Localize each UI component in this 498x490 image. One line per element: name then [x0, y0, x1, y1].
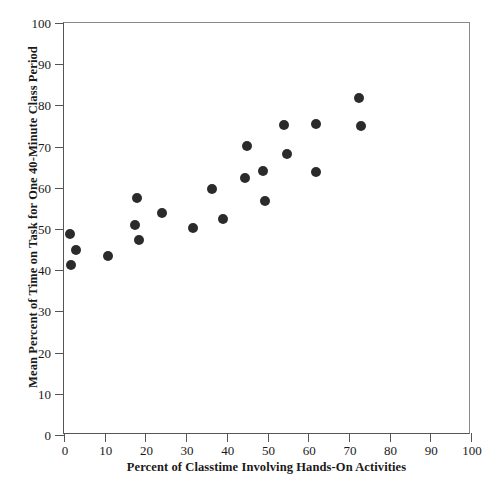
x-axis-tick-label: 0: [62, 444, 69, 457]
data-point: [157, 208, 167, 218]
scatter-plot-figure: Mean Percent of Time on Task for One 40-…: [0, 0, 498, 490]
data-point: [65, 229, 75, 239]
x-axis-tick: 80: [390, 433, 391, 442]
data-point: [66, 260, 76, 270]
y-axis-tick: 20: [55, 353, 64, 354]
x-axis-tick-label: 60: [303, 444, 316, 457]
y-axis-tick-label: 90: [38, 58, 51, 71]
y-axis-tick: 90: [55, 64, 64, 65]
data-point: [103, 251, 113, 261]
x-axis-tick: 60: [308, 433, 309, 442]
y-axis-tick-label: 10: [38, 388, 51, 401]
data-point: [132, 193, 142, 203]
y-axis-tick-label: 40: [38, 264, 51, 277]
x-axis-tick: 30: [186, 433, 187, 442]
plot-area: 0102030405060708090100 01020304050607080…: [63, 22, 470, 434]
data-point: [188, 223, 198, 233]
x-axis-tick-label: 10: [99, 444, 112, 457]
y-axis-tick: 30: [55, 311, 64, 312]
x-axis-tick: 90: [430, 433, 431, 442]
y-axis-tick: 60: [55, 188, 64, 189]
data-point: [311, 167, 321, 177]
data-point: [282, 149, 292, 159]
x-axis-tick: 70: [349, 433, 350, 442]
data-point: [207, 184, 217, 194]
x-axis-tick: 0: [64, 433, 65, 442]
y-axis-tick-label: 50: [38, 223, 51, 236]
data-point: [242, 141, 252, 151]
data-point: [354, 93, 364, 103]
y-axis-tick: 100: [55, 23, 64, 24]
data-point: [279, 120, 289, 130]
x-axis-tick-label: 80: [384, 444, 397, 457]
y-axis-tick: 10: [55, 394, 64, 395]
data-point: [356, 121, 366, 131]
x-axis-tick: 10: [105, 433, 106, 442]
data-point: [311, 119, 321, 129]
x-axis-tick-label: 50: [262, 444, 275, 457]
data-point: [240, 173, 250, 183]
y-axis-tick: 80: [55, 105, 64, 106]
data-point: [258, 166, 268, 176]
y-axis-tick: 70: [55, 147, 64, 148]
y-axis-tick: 40: [55, 270, 64, 271]
data-point: [130, 220, 140, 230]
y-axis-tick-label: 100: [32, 17, 52, 30]
y-axis-tick-label: 30: [38, 306, 51, 319]
y-axis-tick-label: 80: [38, 100, 51, 113]
data-point: [260, 196, 270, 206]
y-axis-tick-label: 20: [38, 347, 51, 360]
x-axis-tick-label: 90: [425, 444, 438, 457]
y-axis-tick: 0: [55, 435, 64, 436]
x-axis-tick: 20: [145, 433, 146, 442]
x-axis-tick: 50: [268, 433, 269, 442]
data-point: [134, 235, 144, 245]
y-axis-tick-label: 60: [38, 182, 51, 195]
data-point: [71, 245, 81, 255]
y-axis-tick: 50: [55, 229, 64, 230]
y-axis-tick-label: 70: [38, 141, 51, 154]
x-axis-tick-label: 100: [462, 444, 482, 457]
y-axis-tick-label: 0: [45, 429, 52, 442]
x-axis-tick-label: 30: [181, 444, 194, 457]
x-axis-tick-label: 40: [221, 444, 234, 457]
x-axis-title: Percent of Classtime Involving Hands-On …: [63, 460, 470, 475]
data-point: [218, 214, 228, 224]
x-axis-tick: 40: [227, 433, 228, 442]
x-axis-tick-label: 70: [343, 444, 356, 457]
x-axis-tick: 100: [471, 433, 472, 442]
x-axis-tick-label: 20: [140, 444, 153, 457]
